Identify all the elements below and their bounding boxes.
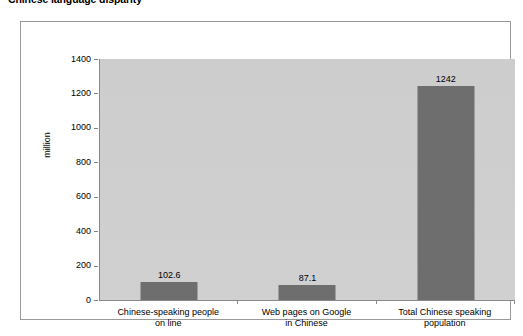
y-axis-tick-label: 1400 bbox=[53, 55, 91, 64]
y-axis-tick-label: 600 bbox=[53, 192, 91, 201]
y-axis-tick-mark bbox=[94, 266, 98, 267]
y-axis-tick-mark bbox=[94, 162, 98, 163]
y-axis-tick-label: 200 bbox=[53, 261, 91, 270]
y-axis-tick-mark bbox=[94, 59, 98, 60]
y-axis-tick-label: 800 bbox=[53, 158, 91, 167]
bar-slot: 87.1 bbox=[238, 59, 376, 300]
x-axis-tick-mark bbox=[514, 300, 515, 304]
y-axis-tick-mark bbox=[94, 128, 98, 129]
y-axis-tick-labels: 1400120010008006004002000 bbox=[53, 59, 91, 300]
chart-title: Chinese language disparity bbox=[8, 0, 142, 5]
y-axis-tick-label: 400 bbox=[53, 227, 91, 236]
y-axis-tick-mark bbox=[94, 197, 98, 198]
x-axis-category-label: Chinese-speaking people on line bbox=[99, 307, 237, 329]
x-axis-category-label: Web pages on Google in Chinese bbox=[237, 307, 375, 329]
x-axis-category-label: Total Chinese speaking population bbox=[376, 307, 514, 329]
chart-frame: million 1400120010008006004002000 102.68… bbox=[20, 21, 511, 320]
bar-slot: 102.6 bbox=[100, 59, 238, 300]
bar[interactable] bbox=[279, 285, 336, 300]
y-axis-tick-label: 1200 bbox=[53, 89, 91, 98]
y-axis-title: million bbox=[42, 105, 52, 185]
y-axis-tick-label: 0 bbox=[53, 296, 91, 305]
bar[interactable] bbox=[417, 86, 474, 300]
bar-value-label: 1242 bbox=[436, 74, 456, 84]
bar[interactable] bbox=[141, 282, 198, 300]
y-axis-tick-label: 1000 bbox=[53, 123, 91, 132]
y-axis-tick-mark bbox=[94, 93, 98, 94]
bar-value-label: 87.1 bbox=[299, 273, 317, 283]
bar-slot: 1242 bbox=[377, 59, 515, 300]
bar-value-label: 102.6 bbox=[158, 270, 181, 280]
x-axis-tick-mark bbox=[237, 300, 238, 304]
y-axis-tick-mark bbox=[94, 231, 98, 232]
x-axis-tick-mark bbox=[376, 300, 377, 304]
plot-area: 102.687.11242 bbox=[99, 59, 515, 301]
y-axis-tick-mark bbox=[94, 300, 98, 301]
